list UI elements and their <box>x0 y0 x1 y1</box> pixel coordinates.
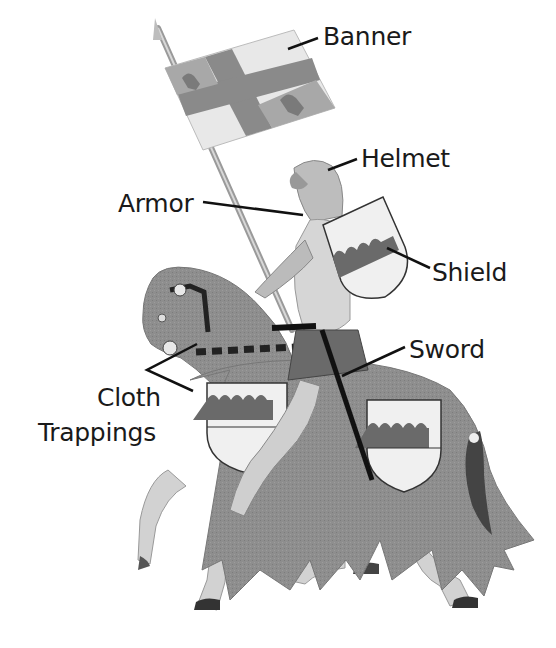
label-armor: Armor <box>118 191 193 216</box>
leader-helmet <box>328 159 357 170</box>
knight-illustration <box>0 0 556 648</box>
label-shield: Shield <box>432 260 507 285</box>
label-banner: Banner <box>323 24 411 49</box>
label-helmet: Helmet <box>361 146 450 171</box>
leader-armor <box>203 202 303 215</box>
label-trappings: Trappings <box>38 420 156 445</box>
label-sword: Sword <box>409 337 485 362</box>
label-cloth: Cloth <box>97 385 161 410</box>
banner <box>165 30 335 150</box>
